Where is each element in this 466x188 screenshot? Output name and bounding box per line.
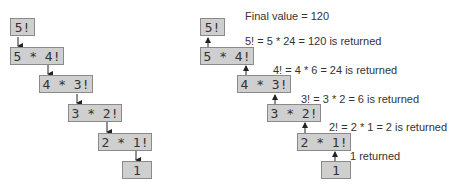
return-box-5-times-4-factorial: 5 * 4!	[200, 47, 254, 65]
return-label-3-factorial: 3! = 3 * 2 = 6 is returned	[301, 93, 419, 105]
return-box-5-factorial: 5!	[200, 18, 225, 36]
return-label-5-factorial: 5! = 5 * 24 = 120 is returned	[245, 35, 381, 47]
return-box-4-times-3-factorial: 4 * 3!	[237, 75, 291, 93]
call-box-4-times-3-factorial: 4 * 3!	[39, 75, 93, 93]
return-box-2-times-1-factorial: 2 * 1!	[297, 133, 351, 151]
call-box-5-times-4-factorial: 5 * 4!	[10, 47, 64, 65]
final-value-label: Final value = 120	[245, 10, 329, 22]
call-box-3-times-2-factorial: 3 * 2!	[68, 104, 122, 122]
return-box-3-times-2-factorial: 3 * 2!	[267, 104, 321, 122]
call-box-1: 1	[122, 161, 152, 179]
call-box-2-times-1-factorial: 2 * 1!	[98, 133, 152, 151]
return-box-1: 1	[321, 161, 351, 179]
return-label-2-factorial: 2! = 2 * 1 = 2 is returned	[329, 121, 447, 133]
return-label-1: 1 returned	[350, 150, 400, 162]
call-box-5-factorial: 5!	[10, 18, 35, 36]
return-label-4-factorial: 4! = 4 * 6 = 24 is returned	[273, 64, 397, 76]
